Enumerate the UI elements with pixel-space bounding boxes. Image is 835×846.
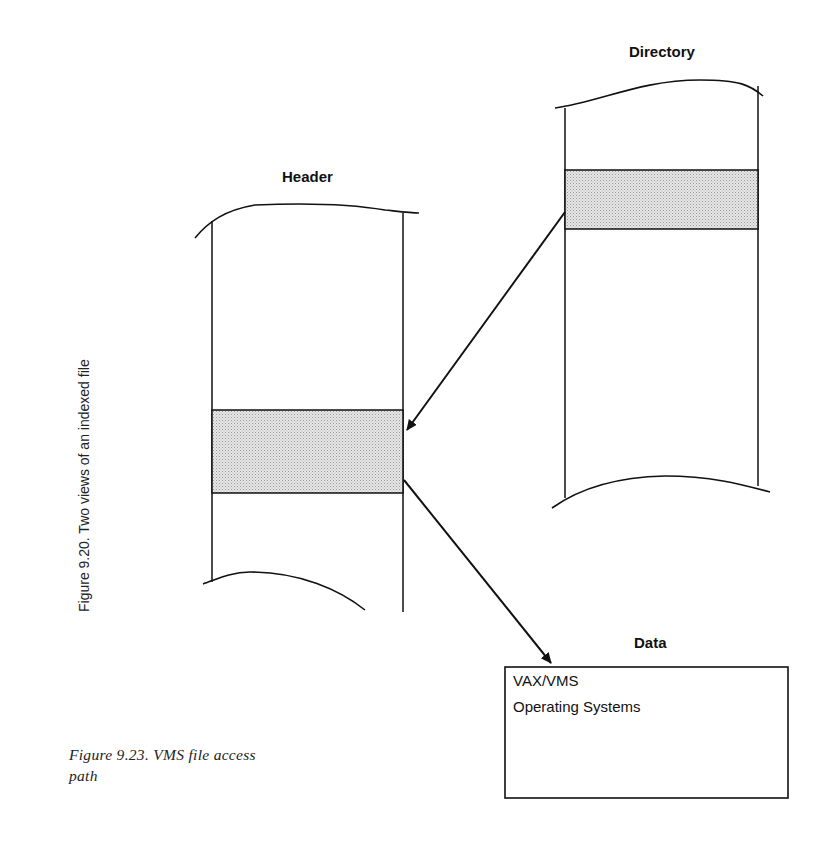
header-label: Header <box>282 168 333 185</box>
arrow-directory-to-header <box>407 212 565 430</box>
directory-shaded-entry <box>565 170 758 229</box>
directory-label: Directory <box>629 43 695 60</box>
rotated-figure-caption: Figure 9.20. Two views of an indexed fil… <box>76 359 92 612</box>
header-bottom-edge <box>203 572 365 610</box>
data-content-line-1: VAX/VMS <box>513 672 579 689</box>
directory-top-edge <box>555 80 763 108</box>
header-shaded-entry <box>212 410 403 493</box>
figure-caption: Figure 9.23. VMS file access path <box>69 744 259 786</box>
directory-bottom-edge <box>552 476 770 508</box>
figure-caption-line-2: path <box>69 767 98 784</box>
directory-block <box>552 80 770 508</box>
data-content-line-2: Operating Systems <box>513 698 641 715</box>
data-label: Data <box>634 634 667 651</box>
figure-caption-line-1: Figure 9.23. VMS file access <box>69 746 256 763</box>
vms-file-access-diagram <box>0 0 835 846</box>
arrow-header-to-data <box>404 480 551 663</box>
header-block <box>195 204 419 612</box>
header-top-edge <box>195 204 419 238</box>
